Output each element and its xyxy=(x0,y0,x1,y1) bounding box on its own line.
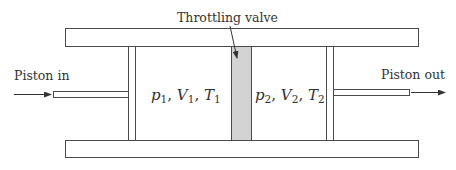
state1-t-sub: 1 xyxy=(214,93,221,105)
state2-label: p2, V2, T2 xyxy=(255,86,325,105)
state1-v-sub: 1 xyxy=(188,93,195,105)
throttling-process-diagram: Throttling valve Piston in Piston out p1… xyxy=(0,0,456,170)
state2-p-sub: 2 xyxy=(265,93,272,105)
right-piston xyxy=(327,47,334,141)
left-piston-rod xyxy=(54,92,129,98)
piston-in-label: Piston in xyxy=(14,68,69,83)
right-piston-rod xyxy=(334,90,410,96)
state2-v-sub: 2 xyxy=(292,93,299,105)
state2-p: p xyxy=(255,86,265,104)
top-cylinder-wall xyxy=(66,29,419,47)
throttling-valve-label: Throttling valve xyxy=(177,10,278,25)
throttling-valve xyxy=(232,47,252,141)
piston-out-label: Piston out xyxy=(381,67,445,82)
state1-p-sub: 1 xyxy=(161,93,168,105)
bottom-cylinder-wall xyxy=(66,141,419,158)
left-piston xyxy=(129,47,136,141)
state1-p: p xyxy=(151,86,161,104)
state1-label: p1, V1, T1 xyxy=(151,86,221,105)
state2-t-sub: 2 xyxy=(318,93,325,105)
